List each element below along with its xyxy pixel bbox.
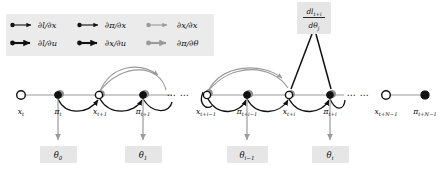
node-marker-filled (421, 91, 429, 99)
theta-box-3[interactable]: θi (312, 146, 349, 163)
derivative-line-to-x (291, 34, 312, 89)
ellipsis-right: ⋯ ⋯ (347, 90, 369, 100)
node-marker-filled (140, 92, 147, 99)
theta-box-2[interactable]: θi−1 (227, 146, 268, 163)
derivative-line-to-pi (316, 34, 331, 89)
legend: ∂l/∂x ∂π/∂x ∂x/∂x ∂l/∂u ∂x/∂u (6, 14, 214, 56)
theta-subscript: 0 (59, 155, 63, 161)
legend-label: ∂π/∂θ (177, 38, 199, 48)
theta-box-0[interactable]: θ0 (40, 146, 77, 163)
arc-x-to-x-2b (208, 70, 288, 91)
ellipsis-mid: ⋯ ⋯ (167, 90, 189, 100)
node-marker-open (382, 91, 391, 100)
node-label: xt (18, 107, 25, 117)
legend-label: ∂l/∂u (38, 38, 57, 48)
theta-box-1[interactable]: θ1 (125, 146, 162, 163)
node-marker-open (17, 91, 26, 100)
node-subscript: t+1 (141, 111, 151, 117)
node-marker-open (203, 91, 210, 98)
node-subscript: t+i (287, 111, 295, 117)
node-label: xt+1 (93, 107, 107, 117)
node-label: πt+N−1 (412, 107, 437, 117)
arc-x-to-x-2 (208, 68, 282, 91)
graph-nodes: xt πt xt+1 πt+1 xt+i−1 πt+i−1 (17, 89, 437, 117)
gray-arcs-above (100, 67, 288, 91)
arc-pi-tail (330, 99, 345, 108)
arc-pi-to-next-1 (143, 99, 172, 111)
node-subscript: t+i (328, 111, 336, 117)
node-subscript: t (59, 111, 62, 117)
theta-subscript: i−1 (245, 155, 255, 161)
node-marker-filled (244, 92, 251, 99)
node-x_ti[interactable]: xt+i (283, 90, 296, 117)
node-marker-open (95, 91, 102, 98)
legend-label: ∂x/∂u (105, 38, 126, 48)
node-subscript: t+N−1 (379, 111, 398, 117)
legend-label: ∂l/∂x (38, 20, 57, 30)
node-subscript: t (22, 111, 25, 117)
node-marker-filled (327, 92, 334, 99)
theta-arrows (58, 96, 330, 140)
theta-subscript: i (332, 155, 334, 161)
node-marker-filled (55, 92, 62, 99)
derivative-numerator-sub: t+i (314, 11, 322, 17)
derivative-denominator-sub: j (317, 25, 320, 32)
node-label: xt+i (283, 107, 296, 117)
computation-graph-diagram: ∂l/∂x ∂π/∂x ∂x/∂x ∂l/∂u ∂x/∂u (0, 0, 444, 173)
node-label: xt+N−1 (375, 107, 398, 117)
node-subscript: t+i−1 (242, 111, 258, 117)
legend-label: ∂π/∂x (105, 20, 127, 30)
node-marker-open (285, 91, 292, 98)
legend-label: ∂x/∂x (177, 20, 198, 30)
node-x_tim1[interactable]: xt+i−1 (196, 89, 216, 117)
node-x_t[interactable]: xt (17, 91, 26, 117)
node-subscript: t+i−1 (200, 111, 216, 117)
node-label: xt+i−1 (196, 107, 216, 117)
node-subscript: t+N−1 (418, 111, 437, 117)
theta-boxes: θ0 θ1 θi−1 θi (40, 146, 349, 163)
derivative-box-group: dlt+i dθj (291, 2, 331, 89)
theta-subscript: 1 (144, 155, 148, 161)
node-subscript: t+1 (97, 111, 107, 117)
node-label: πt (53, 107, 62, 117)
